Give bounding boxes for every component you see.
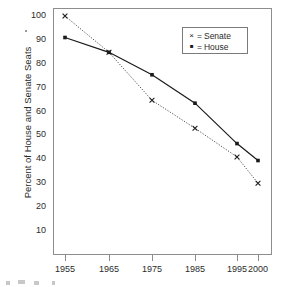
x-axis-tick-label: 2000: [238, 264, 278, 274]
x-axis-tick: [109, 255, 110, 261]
legend-marker-square-icon: ▪: [187, 42, 196, 50]
x-axis-tick: [65, 255, 66, 261]
x-axis-tick-label: 1955: [45, 264, 85, 274]
data-point-marker-square: [256, 159, 260, 163]
y-axis-title: Percent of House and Senate Seats: [22, 33, 33, 213]
legend-equals-senate: =: [196, 31, 204, 41]
y-axis-tick-label: 10: [20, 226, 46, 235]
caption-remnant: [0, 279, 288, 287]
data-point-marker-x: [63, 14, 68, 19]
x-axis-tick-label: 1975: [132, 264, 172, 274]
x-axis-tick: [237, 255, 238, 261]
series-line-house: [65, 38, 258, 161]
chart-legend: × = Senate ▪ = House: [182, 27, 248, 54]
data-point-marker-x: [235, 155, 240, 160]
chart-figure: 102030405060708090100 Percent of House a…: [0, 0, 288, 287]
x-axis-tick-label: 1985: [175, 264, 215, 274]
data-point-marker-x: [193, 126, 198, 131]
legend-entry-senate: × = Senate: [187, 30, 247, 41]
data-point-marker-x: [150, 98, 155, 103]
series-house: [63, 36, 260, 163]
data-point-marker-square: [193, 101, 197, 105]
x-axis-tick-label: 1965: [89, 264, 129, 274]
data-point-marker-square: [150, 73, 154, 77]
data-point-marker-square: [107, 51, 111, 55]
legend-entry-house: ▪ = House: [187, 41, 247, 52]
x-axis-tick: [258, 255, 259, 261]
legend-label-senate: Senate: [204, 31, 231, 41]
legend-label-house: House: [204, 42, 229, 52]
data-point-marker-x: [256, 181, 261, 186]
x-axis-tick: [195, 255, 196, 261]
y-axis-tick-label: 100: [20, 11, 46, 20]
legend-equals-house: =: [196, 42, 204, 52]
data-point-marker-square: [235, 142, 239, 146]
data-point-marker-square: [63, 36, 67, 40]
x-axis-tick: [152, 255, 153, 261]
scan-speck-artifact: [25, 30, 27, 32]
